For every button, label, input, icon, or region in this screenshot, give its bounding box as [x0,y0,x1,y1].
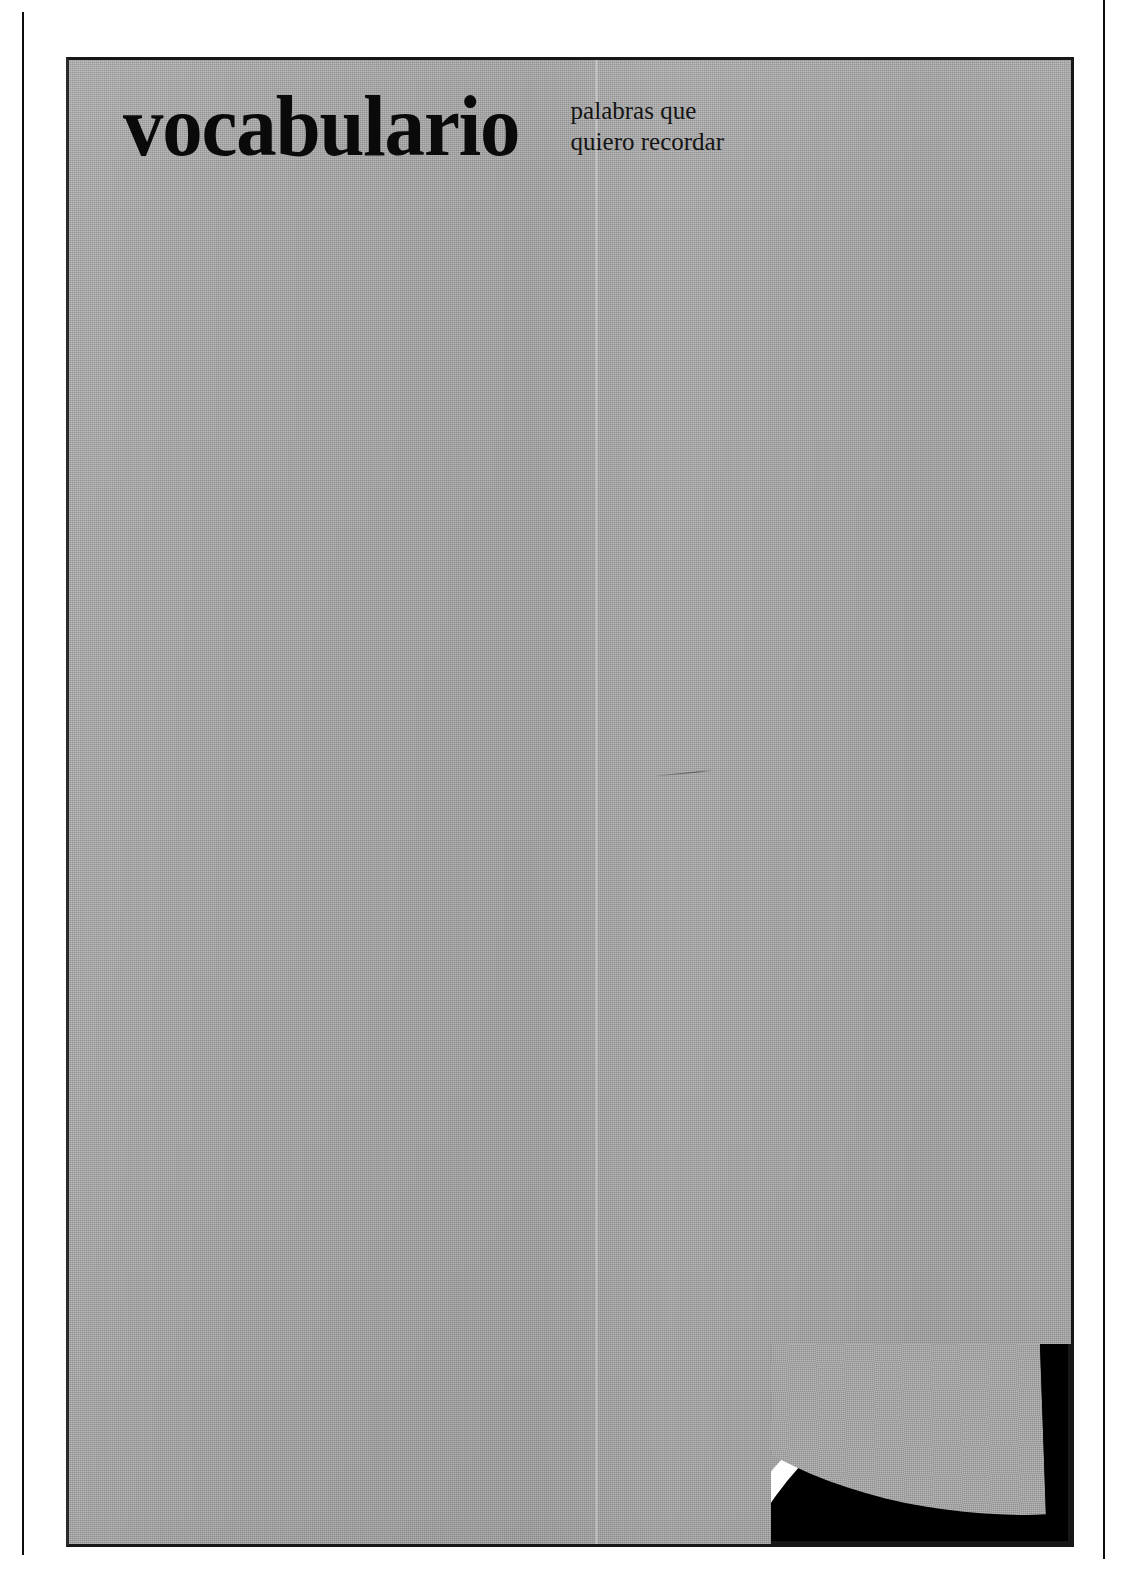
masthead: vocabulario palabras que quiero recordar [123,88,724,193]
page-curl-corner [771,1344,1071,1544]
right-margin-rule [1103,0,1105,1559]
hairline-scratch [651,770,713,777]
panel-border-right [1068,1344,1071,1544]
vertical-scan-crease [595,60,598,1544]
scanned-page: vocabulario palabras que quiero recordar [0,0,1139,1583]
worksheet-panel: vocabulario palabras que quiero recordar [66,57,1074,1547]
left-margin-rule [22,12,24,1555]
scan-shading [69,60,1071,1544]
page-curl-underside-white [771,1344,1071,1544]
panel-border-bottom [771,1541,1071,1544]
halftone-texture [69,60,1071,1544]
page-subtitle: palabras que quiero recordar [571,95,724,157]
page-curl-shadow [771,1344,1071,1544]
subtitle-line-2: quiero recordar [571,126,724,157]
subtitle-line-1: palabras que [571,95,724,126]
page-title: vocabulario [123,88,519,165]
page-curl-sheet [771,1344,1046,1529]
